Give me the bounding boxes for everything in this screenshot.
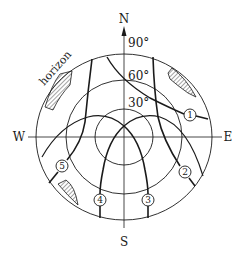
svg-text:1: 1 <box>187 110 193 120</box>
sun-path-4 <box>100 126 124 194</box>
compass-south: S <box>120 235 128 249</box>
path-label-5: 5 <box>56 160 68 172</box>
altitude-label-30: 30° <box>128 96 149 110</box>
compass-west: W <box>13 130 26 144</box>
altitude-label-90: 90° <box>128 36 149 50</box>
sun-path-2-end <box>189 178 195 186</box>
svg-text:2: 2 <box>182 167 188 177</box>
sun-path-diagram: 1 2 3 4 5 N S W E 90° 60° <box>0 0 242 256</box>
shaded-region-ne <box>168 68 196 97</box>
compass-east: E <box>224 130 233 144</box>
shaded-regions <box>45 68 196 205</box>
path-label-1: 1 <box>184 109 196 121</box>
sun-path-3 <box>124 126 148 194</box>
svg-text:4: 4 <box>97 195 103 205</box>
path-label-2: 2 <box>179 166 191 178</box>
sun-path-1-end <box>196 116 208 119</box>
path-label-3: 3 <box>142 194 154 206</box>
svg-text:3: 3 <box>145 195 151 205</box>
svg-text:5: 5 <box>59 161 65 171</box>
compass-north: N <box>119 12 130 26</box>
altitude-label-60: 60° <box>128 69 149 83</box>
north-arrow-icon <box>122 26 127 36</box>
sun-path-5-end <box>49 172 58 183</box>
path-label-4: 4 <box>94 194 106 206</box>
